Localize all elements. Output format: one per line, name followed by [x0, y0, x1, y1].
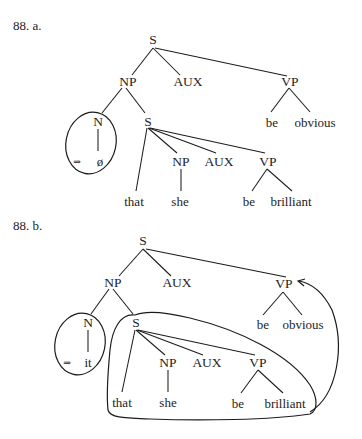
node-aux: AUX	[173, 74, 202, 89]
edge-s-subnp	[136, 330, 165, 355]
figure-label-a: 88. a.	[13, 18, 42, 33]
leaf-it: it	[84, 355, 92, 370]
edge-s-that	[136, 128, 147, 191]
edge-np-n	[102, 88, 122, 113]
edge-subvp-brilliant	[258, 370, 283, 393]
node-n: N	[83, 315, 93, 330]
circled-n-node	[49, 308, 111, 379]
edge-np-s	[126, 88, 145, 113]
edge-s-subnp	[148, 128, 177, 153]
leaf-obvious: obvious	[294, 115, 335, 130]
arrow-icon: ⇒	[63, 358, 71, 368]
node-np: NP	[104, 275, 121, 290]
edge-vp-be	[271, 88, 289, 112]
edge-s-vp	[155, 48, 287, 76]
edge-s-np	[132, 48, 153, 75]
edge-vp-obvious	[289, 88, 310, 112]
leaf-obvious: obvious	[282, 317, 323, 332]
edge-np-s	[113, 289, 133, 314]
leaf-sub-be: be	[243, 194, 256, 209]
edge-subvp-be	[241, 370, 258, 393]
node-vp: VP	[275, 276, 292, 291]
leaf-that: that	[112, 395, 132, 410]
node-s-root: S	[149, 32, 157, 47]
arrow-icon: ⇒	[73, 157, 81, 167]
node-n: N	[93, 114, 103, 129]
node-sub-aux: AUX	[192, 355, 221, 370]
edge-s-np	[119, 249, 143, 276]
node-sub-vp: VP	[259, 154, 276, 169]
edge-vp-be	[263, 292, 283, 315]
leaf-that: that	[124, 194, 144, 209]
figure-88a: 88. a. S NP AUX VP N S be obvious ⇒ ø NP…	[13, 18, 336, 209]
node-np: NP	[119, 74, 136, 89]
node-aux: AUX	[162, 275, 191, 290]
node-sub-vp: VP	[249, 355, 266, 370]
leaf-brilliant: brilliant	[264, 396, 306, 411]
node-sub-np: NP	[159, 355, 176, 370]
node-sub-aux: AUX	[204, 154, 233, 169]
movement-arrow	[299, 281, 338, 412]
edge-s-subaux	[137, 330, 203, 355]
leaf-she: she	[171, 194, 189, 209]
node-vp: VP	[281, 74, 298, 89]
edge-subvp-brilliant	[267, 169, 292, 191]
node-sub-s: S	[132, 315, 140, 330]
edge-subvp-be	[252, 169, 267, 191]
leaf-brilliant: brilliant	[270, 194, 312, 209]
leaf-null: ø	[97, 154, 104, 169]
leaf-she: she	[159, 395, 177, 410]
circled-n-node	[60, 107, 122, 178]
leaf-be: be	[266, 115, 279, 130]
node-sub-s: S	[144, 114, 152, 129]
figure-88b: 88. b. S NP AUX VP N S be obvious	[13, 218, 338, 420]
edge-vp-obvious	[283, 292, 302, 315]
leaf-sub-be: be	[232, 396, 245, 411]
leaf-be: be	[257, 317, 270, 332]
node-s-root: S	[139, 233, 147, 248]
edge-np-n	[91, 289, 109, 314]
figure-label-b: 88. b.	[13, 218, 42, 233]
syntax-tree-diagram: 88. a. S NP AUX VP N S be obvious ⇒ ø NP…	[0, 0, 362, 439]
edge-s-subvp	[150, 128, 265, 153]
node-sub-np: NP	[172, 154, 189, 169]
edge-s-that	[122, 330, 135, 392]
